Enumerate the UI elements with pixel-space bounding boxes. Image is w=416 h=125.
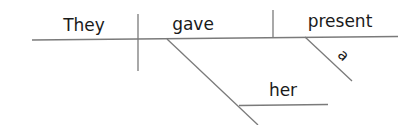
- baseline: [32, 37, 398, 41]
- verb-word: gave: [172, 14, 214, 34]
- sentence-diagram: They gave present her a: [0, 0, 416, 125]
- indirect-object-word: her: [269, 80, 297, 100]
- indirect-object-slant: [167, 39, 258, 125]
- modifier-word: a: [334, 46, 353, 65]
- subject-word: They: [62, 15, 105, 35]
- indirect-object-line: [239, 105, 328, 106]
- direct-object-word: present: [308, 11, 373, 31]
